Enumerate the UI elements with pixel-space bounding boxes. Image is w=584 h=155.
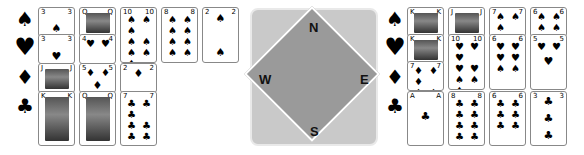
jack-face-icon	[455, 13, 479, 33]
heart-suit-icon: ♥	[384, 36, 406, 58]
spade-pip-icon: ♠	[203, 12, 238, 25]
card-heart[interactable]: 1010 ♥♥ ♥ ♥♥ ♠♠ ♠ ♠♠	[448, 34, 485, 90]
east-label: E	[360, 72, 369, 87]
card-rank: 3	[41, 36, 45, 43]
club-suit-icon: ♣	[384, 95, 406, 117]
heart-pip-icon: ♥	[531, 55, 566, 68]
right-hand: ♠ ♥ ♦ ♣ KK JJ 77 ♠♠ ♠ ♠♠ 66 ♠♠ ♠♠ KK 101…	[380, 0, 584, 155]
card-spade[interactable]: 66 ♠♠ ♠♠	[530, 7, 567, 37]
card-club[interactable]: 88 ♣♣ ♣♣ ♣♣ ♣♣	[448, 91, 485, 146]
card-rank: J	[451, 9, 453, 16]
king-face-icon	[414, 13, 438, 33]
card-club[interactable]: 66 ♣♣ ♣♣ ♣♣	[489, 91, 526, 146]
card-diamond[interactable]: 55 ♦♦ ♦	[79, 63, 116, 93]
king-face-icon	[414, 40, 438, 60]
card-spade[interactable]: 33 ♠	[38, 7, 75, 37]
spade-pip-icon: ♠	[203, 46, 238, 59]
club-pips-icon: ♣♣ ♣ ♣♣ ♣♣	[127, 98, 150, 142]
heart-pip-icon: ♥	[39, 50, 74, 63]
heart-pips-icon: ♥♥ ♥♥ ♠♠	[496, 41, 519, 74]
card-diamond[interactable]: JJ	[38, 63, 75, 93]
north-label: N	[309, 20, 318, 35]
card-rank: 3	[68, 9, 72, 16]
card-spade[interactable]: KK	[407, 7, 444, 37]
heart-pips-icon: ♥♥ ♥ ♥♥ ♠♠ ♠ ♠♠	[455, 41, 478, 90]
compass-table: N W E S	[250, 8, 378, 146]
diamond-pips-icon: ♦♦ ♦ ♦♦	[414, 65, 437, 91]
card-spade[interactable]: JJ	[448, 7, 485, 37]
card-rank: 3	[41, 9, 45, 16]
card-rank: J	[480, 9, 482, 16]
card-club[interactable]: KK	[38, 91, 75, 146]
card-heart[interactable]: 66 ♥♥ ♥♥ ♠♠	[489, 34, 526, 90]
card-spade[interactable]: 88 ♠♠ ♠♠ ♠♠ ♠♠	[161, 7, 198, 63]
club-pips-icon: ♣♣ ♣♣ ♣♣ ♣♣	[455, 98, 478, 142]
card-diamond[interactable]: 22 ♦	[120, 63, 157, 93]
card-spade[interactable]: QQ	[79, 7, 116, 37]
spade-pips-icon: ♠♠ ♠ ♠♠ ♠♠ ♠ ♠♠	[127, 14, 150, 63]
diamond-pip-icon: ♦	[121, 67, 156, 80]
king-face-icon	[45, 97, 69, 141]
heart-pips-icon: ♥♥	[537, 41, 560, 52]
club-pip-icon: ♣	[531, 112, 566, 125]
card-spade[interactable]: 1010 ♠♠ ♠ ♠♠ ♠♠ ♠ ♠♠	[120, 7, 157, 63]
card-spade[interactable]: 77 ♠♠ ♠ ♠♠	[489, 7, 526, 37]
club-pip-icon: ♣	[531, 95, 566, 108]
south-label: S	[310, 124, 319, 139]
club-pip-icon: ♣	[531, 129, 566, 142]
card-rank: 3	[68, 36, 72, 43]
club-pips-icon: ♣♣ ♣♣ ♣♣	[496, 98, 519, 131]
card-heart[interactable]: 44 ♥♥	[79, 34, 116, 64]
card-rank: A	[410, 93, 415, 100]
card-club[interactable]: 33 ♣ ♣ ♣	[530, 91, 567, 146]
card-diamond[interactable]: 77 ♦♦ ♦ ♦♦	[407, 61, 444, 91]
spade-suit-icon: ♠	[14, 8, 36, 30]
club-suit-icon: ♣	[14, 95, 36, 117]
heart-suit-icon: ♥	[14, 36, 36, 58]
card-club[interactable]: 77 ♣♣ ♣ ♣♣ ♣♣	[120, 91, 157, 146]
heart-pips-icon: ♥♥	[86, 38, 109, 49]
diamond-suit-icon: ♦	[384, 66, 406, 88]
spade-pips-icon: ♠♠ ♠♠	[537, 11, 560, 33]
spade-suit-icon: ♠	[384, 8, 406, 30]
diamond-pips-icon: ♦♦	[86, 67, 109, 78]
jack-face-icon	[45, 69, 69, 89]
spade-pips-icon: ♠♠ ♠♠ ♠♠ ♠♠	[168, 14, 191, 58]
card-heart[interactable]: 33 ♥	[38, 34, 75, 64]
diamond-suit-icon: ♦	[14, 66, 36, 88]
card-rank: J	[70, 65, 72, 72]
card-club[interactable]: AA ♣	[407, 91, 444, 146]
card-spade[interactable]: 22 ♠ ♠	[202, 7, 239, 63]
left-hand: ♠ ♥ ♦ ♣ 33 ♠ QQ 1010 ♠♠ ♠ ♠♠ ♠♠ ♠ ♠♠ 88 …	[0, 0, 240, 155]
queen-face-icon	[86, 97, 110, 141]
card-heart[interactable]: 55 ♥♥ ♥	[530, 34, 567, 90]
card-club[interactable]: QQ	[79, 91, 116, 146]
card-rank: J	[41, 65, 43, 72]
card-heart[interactable]: KK	[407, 34, 444, 64]
west-label: W	[259, 72, 271, 87]
queen-face-icon	[86, 13, 110, 33]
card-rank: A	[436, 93, 441, 100]
club-pip-icon: ♣	[408, 110, 443, 123]
